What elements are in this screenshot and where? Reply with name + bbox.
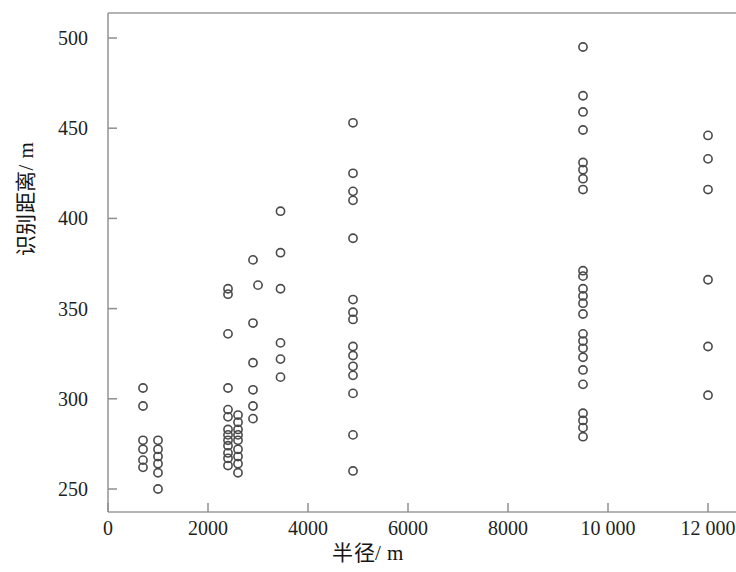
data-point: [154, 469, 162, 477]
data-point: [579, 366, 587, 374]
data-point: [579, 43, 587, 51]
y-axis-title-text: 识别距离: [14, 170, 37, 256]
data-point: [276, 339, 284, 347]
data-point: [349, 119, 357, 127]
x-axis-title: 半径/ m: [0, 536, 736, 566]
x-tick-marks: [108, 503, 708, 512]
scatter-plot-figure: 250300350400450500 0200040006000800010 0…: [0, 0, 736, 572]
data-point: [579, 272, 587, 280]
y-tick-label: 250: [26, 479, 88, 499]
data-point: [349, 362, 357, 370]
x-axis-title-text: 半径: [332, 541, 375, 564]
data-point: [349, 431, 357, 439]
data-point: [349, 351, 357, 359]
x-tick-label: 6000: [388, 518, 428, 538]
data-point: [704, 155, 712, 163]
data-point: [249, 359, 257, 367]
data-point: [349, 187, 357, 195]
x-tick-label: 2000: [188, 518, 228, 538]
data-point: [704, 185, 712, 193]
data-point: [276, 207, 284, 215]
data-point: [349, 196, 357, 204]
data-point: [224, 290, 232, 298]
data-point: [349, 467, 357, 475]
x-tick-label: 12 000: [681, 518, 736, 538]
data-point: [249, 415, 257, 423]
data-point: [249, 256, 257, 264]
y-tick-marks: [108, 38, 117, 489]
data-point: [579, 92, 587, 100]
data-point: [249, 386, 257, 394]
data-point: [234, 436, 242, 444]
data-point: [579, 353, 587, 361]
data-point: [704, 131, 712, 139]
data-point: [579, 108, 587, 116]
data-point: [276, 373, 284, 381]
data-point: [249, 402, 257, 410]
x-tick-label: 8000: [488, 518, 528, 538]
data-point: [704, 391, 712, 399]
x-tick-label: 10 000: [581, 518, 636, 538]
data-point: [234, 469, 242, 477]
data-point: [349, 234, 357, 242]
x-tick-label: 4000: [288, 518, 328, 538]
data-point: [579, 380, 587, 388]
data-point: [349, 342, 357, 350]
plot-frame: [108, 13, 736, 512]
data-point: [579, 310, 587, 318]
data-point: [276, 249, 284, 257]
plot-canvas: [0, 0, 736, 572]
data-point: [139, 384, 147, 392]
data-point: [139, 436, 147, 444]
data-point: [579, 126, 587, 134]
data-point: [579, 185, 587, 193]
data-point: [154, 485, 162, 493]
x-tick-label: 0: [103, 518, 113, 538]
y-axis-title: 识别距离/ m: [9, 89, 39, 309]
data-point: [254, 281, 262, 289]
data-point: [224, 384, 232, 392]
data-point: [224, 330, 232, 338]
y-tick-label: 300: [26, 389, 88, 409]
data-point: [704, 276, 712, 284]
data-point: [154, 436, 162, 444]
data-point: [704, 342, 712, 350]
data-point: [276, 355, 284, 363]
x-axis-title-unit: / m: [375, 541, 404, 565]
y-tick-label: 500: [26, 28, 88, 48]
data-point: [579, 433, 587, 441]
data-point: [349, 295, 357, 303]
data-point: [139, 445, 147, 453]
data-point: [349, 389, 357, 397]
y-axis-title-unit: / m: [14, 142, 38, 171]
data-point: [349, 169, 357, 177]
data-point-markers: [139, 43, 712, 493]
data-point: [249, 319, 257, 327]
data-point: [349, 371, 357, 379]
data-point: [139, 402, 147, 410]
data-point: [579, 175, 587, 183]
axes-group: [108, 13, 736, 512]
data-point: [276, 285, 284, 293]
